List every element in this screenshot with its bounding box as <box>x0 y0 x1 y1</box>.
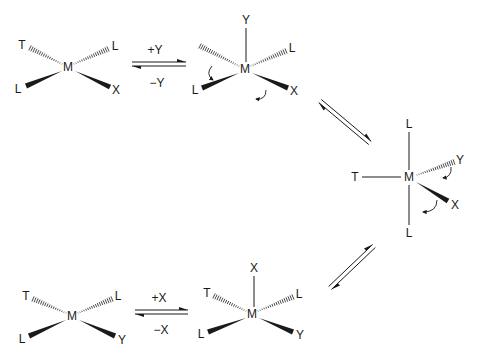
curved-arrow-icon <box>423 200 437 212</box>
ligand-label: T <box>203 287 210 299</box>
wedge-bond <box>28 320 66 338</box>
hashed-bond <box>213 293 246 311</box>
ligand-label: L <box>19 333 26 345</box>
ligand-label: T <box>22 290 29 302</box>
wedge-bond <box>252 73 289 90</box>
metal-center-label: M <box>240 63 250 75</box>
wedge-bond <box>259 318 294 334</box>
metal-center-label: M <box>404 171 414 183</box>
ligand-label: L <box>289 42 296 54</box>
wedge-bond <box>25 71 62 88</box>
hashed-bond <box>199 44 239 67</box>
hashed-bond <box>258 294 294 311</box>
equilibrium-reverse-label: −Y <box>149 77 164 89</box>
ligand-label: L <box>198 328 205 340</box>
equilibrium-reverse-label: −X <box>153 324 168 336</box>
hashed-bond <box>74 46 109 64</box>
ligand-label: L <box>192 84 199 96</box>
ligand-label: L <box>15 83 22 95</box>
equilibrium-arrow-eq-pseudorotation-1 <box>319 99 372 144</box>
hashed-bond <box>32 296 66 313</box>
metal-center-label: M <box>63 61 73 73</box>
equilibrium-forward-label: +X <box>151 292 166 304</box>
wedge-bond <box>416 182 449 203</box>
wedge-bond <box>201 73 239 90</box>
ligand-label: L <box>296 288 303 300</box>
reaction-scheme: MTLLXMYLLXMLTYXLMXTLLYMTLLY+Y−Y+X−X <box>0 0 477 358</box>
wedge-bond <box>79 320 116 338</box>
ligand-label: L <box>406 227 413 239</box>
ligand-label: Y <box>456 154 464 166</box>
ligand-label: L <box>115 290 122 302</box>
ligand-label: Y <box>118 334 126 346</box>
ligand-label: L <box>112 40 119 52</box>
ligand-label: Y <box>242 14 250 26</box>
ligand-label: X <box>250 262 258 274</box>
equilibrium-arrow-eq-add-Y <box>132 59 186 69</box>
hashed-bond <box>78 296 113 313</box>
hashed-bond <box>417 159 455 175</box>
hashed-bond <box>251 48 287 66</box>
wedge-bond <box>207 318 246 334</box>
equilibrium-arrow-eq-add-X <box>135 307 188 317</box>
curved-arrow-icon <box>209 66 213 80</box>
ligand-label: Y <box>296 329 304 341</box>
ligand-label: X <box>112 84 120 96</box>
ligand-label: L <box>406 118 413 130</box>
wedge-bond <box>75 71 111 89</box>
metal-center-label: M <box>247 308 257 320</box>
equilibrium-forward-label: +Y <box>147 44 162 56</box>
curved-arrow-icon <box>443 167 451 178</box>
metal-center-label: M <box>67 310 77 322</box>
equilibrium-arrow-eq-pseudorotation-2 <box>329 245 376 290</box>
ligand-label: X <box>290 85 298 97</box>
structure-five-coordinate-5 <box>207 276 294 334</box>
ligand-label: T <box>351 171 358 183</box>
hashed-bond <box>29 45 62 64</box>
ligand-label: X <box>451 199 459 211</box>
ligand-label: T <box>18 39 25 51</box>
curved-arrow-icon <box>256 90 266 99</box>
